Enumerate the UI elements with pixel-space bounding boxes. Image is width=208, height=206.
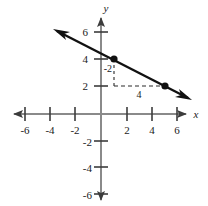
axes-group (13, 17, 187, 201)
graph-svg: -6 -4 -2 2 4 6 6 4 2 -2 -4 -6 x y (0, 0, 208, 206)
line-lower-right-arrow-icon (175, 89, 192, 100)
y-tick-label: 4 (83, 53, 89, 65)
x-tick-label: -4 (45, 124, 55, 136)
x-tick-label: -2 (70, 124, 79, 136)
x-axis-label: x (193, 108, 199, 120)
slope-triangle-group: -2 4 (104, 59, 165, 100)
coordinate-plane-figure: -6 -4 -2 2 4 6 6 4 2 -2 -4 -6 x y (0, 0, 208, 206)
x-tick-label: 4 (149, 124, 155, 136)
slope-rise-label: -2 (104, 63, 112, 74)
data-point-5-2 (161, 82, 168, 89)
y-tick-label: 6 (83, 26, 89, 38)
y-tick-label: -4 (83, 162, 93, 174)
x-tick-label: 6 (174, 124, 180, 136)
data-point-1-4 (110, 55, 117, 62)
y-tick-label: -2 (83, 136, 92, 148)
y-axis-label: y (103, 2, 109, 14)
slope-run-label: 4 (137, 89, 142, 100)
plotted-line (57, 31, 188, 98)
line-upper-left-arrow-icon (53, 29, 70, 40)
y-tick-label: -6 (83, 189, 93, 201)
x-tick-label: -6 (20, 124, 30, 136)
x-tick-label: 2 (124, 124, 130, 136)
y-tick-label: 2 (83, 80, 89, 92)
plotted-line-group (53, 29, 192, 100)
